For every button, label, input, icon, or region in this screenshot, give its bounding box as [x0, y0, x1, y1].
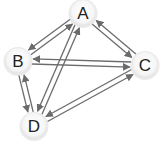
edge-d-to-b: [24, 75, 33, 112]
node-b: B: [4, 47, 33, 76]
edge-b-to-c: [32, 64, 130, 67]
node-label: D: [28, 117, 40, 136]
edge-a-to-d: [38, 25, 75, 111]
edge-a-to-b: [29, 19, 71, 50]
node-d: D: [20, 112, 49, 141]
edge-d-to-c: [48, 75, 134, 122]
edge-a-to-c: [92, 24, 132, 57]
edge-c-to-a: [96, 21, 136, 54]
edge-c-to-b: [33, 59, 131, 62]
edge-b-to-a: [31, 24, 73, 55]
nodes-layer: ABCD: [4, 0, 160, 141]
edges-layer: [19, 19, 136, 121]
node-a: A: [69, 0, 98, 28]
node-c: C: [131, 51, 160, 80]
node-label: B: [12, 52, 23, 71]
node-label: C: [139, 56, 151, 75]
directed-graph: ABCD: [0, 0, 164, 147]
node-label: A: [77, 4, 89, 23]
edge-b-to-d: [19, 75, 28, 112]
